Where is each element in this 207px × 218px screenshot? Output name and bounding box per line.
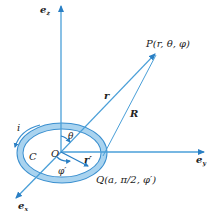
phi-prime-label: φ′	[58, 166, 66, 176]
y-axis-label: ey	[196, 154, 206, 167]
vector-r-prime-label: r′	[84, 154, 92, 165]
x-axis-label: ex	[18, 200, 28, 212]
origin-label: O	[51, 148, 59, 159]
contour-label: C	[29, 151, 37, 162]
current-label: i	[17, 122, 20, 133]
z-axis-label: ez	[40, 4, 50, 16]
vector-r-label: r	[104, 90, 110, 101]
vector-R-label: R	[129, 108, 138, 119]
point-Q-label: Q(a, π/2, φ′)	[96, 174, 156, 185]
vector-r	[61, 54, 155, 152]
current-loop-diagram: ez ey ex P(r, θ, φ) Q(a, π/2, φ′) O r R …	[0, 0, 207, 218]
point-P-label: P(r, θ, φ)	[145, 38, 190, 49]
theta-label: θ	[68, 131, 74, 141]
vector-R	[103, 55, 156, 156]
